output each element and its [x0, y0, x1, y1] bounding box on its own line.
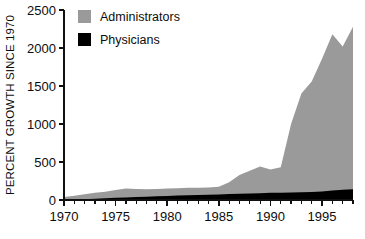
- y-tick-label-0: 0: [49, 193, 56, 208]
- x-tick-label-1980: 1980: [153, 209, 182, 224]
- growth-area-chart: 0500100015002000250019701975198019851990…: [0, 0, 365, 239]
- y-tick-label-2500: 2500: [27, 3, 56, 18]
- y-axis-title: PERCENT GROWTH SINCE 1970: [4, 15, 16, 195]
- x-tick-label-1970: 1970: [50, 209, 79, 224]
- y-tick-label-1500: 1500: [27, 79, 56, 94]
- y-tick-label-1000: 1000: [27, 117, 56, 132]
- y-tick-label-500: 500: [34, 155, 56, 170]
- legend-label-physicians: Physicians: [100, 33, 160, 47]
- chart-container: 0500100015002000250019701975198019851990…: [0, 0, 365, 239]
- legend-swatch-physicians: [78, 33, 91, 46]
- legend-swatch-administrators: [78, 10, 91, 23]
- x-tick-label-1995: 1995: [308, 209, 337, 224]
- x-tick-label-1975: 1975: [101, 209, 130, 224]
- legend-label-administrators: Administrators: [100, 10, 180, 24]
- x-tick-label-1990: 1990: [256, 209, 285, 224]
- x-tick-label-1985: 1985: [204, 209, 233, 224]
- series-area-administrators: [64, 27, 353, 200]
- y-tick-label-2000: 2000: [27, 41, 56, 56]
